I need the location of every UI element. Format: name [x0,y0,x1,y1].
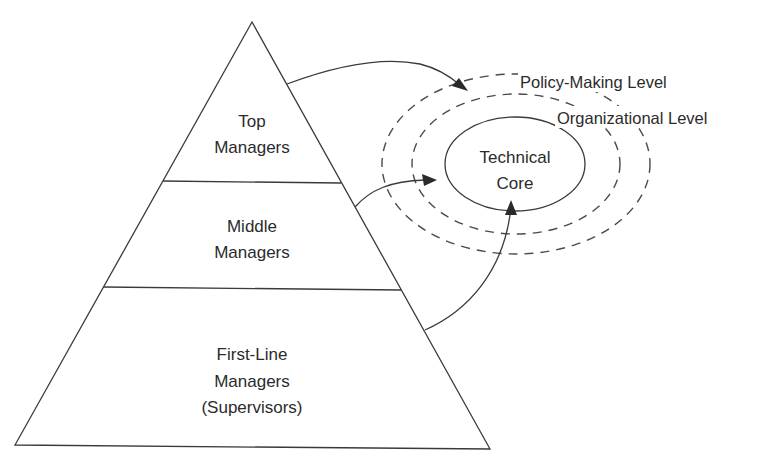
management-levels-diagram: Top Managers Middle Managers First-Line … [0,0,758,466]
tier-first-line-line-3: (Supervisors) [201,398,302,417]
tier-first-line: First-Line Managers (Supervisors) [201,345,302,417]
arrow-first-line-to-technical-core [425,200,517,330]
tier-middle: Middle Managers [214,217,290,262]
tier-middle-line-1: Middle [227,217,277,236]
organizational-level-label: Organizational Level [557,109,707,127]
tier-top-line-1: Top [238,112,265,131]
tier-top: Top Managers [214,112,290,157]
tier-divider-top-middle [163,181,341,183]
tier-divider-middle-first-line [103,287,401,290]
tier-first-line-line-1: First-Line [217,345,288,364]
technical-core-line-1: Technical [480,148,551,167]
arrowhead-icon [422,174,437,186]
tier-first-line-line-2: Managers [214,372,290,391]
arrowhead-icon [505,200,517,215]
policy-making-level-label: Policy-Making Level [520,73,667,91]
tier-top-line-2: Managers [214,138,290,157]
tier-middle-line-2: Managers [214,243,290,262]
arrow-top-to-policy-making [287,61,468,91]
arrow-middle-to-organizational [355,174,437,207]
technical-core-line-2: Core [497,174,534,193]
